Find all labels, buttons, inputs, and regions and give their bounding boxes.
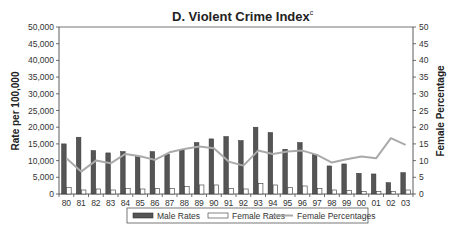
x-axis-ticks: 8081828384858687888990919293949596979899… <box>59 194 413 208</box>
x-tick-label: 96 <box>298 198 308 208</box>
x-tick-label: 95 <box>283 198 293 208</box>
male-rate-bar <box>106 153 111 194</box>
x-tick-label: 86 <box>150 198 160 208</box>
male-rate-bar <box>121 152 126 194</box>
y2-tick-label: 20 <box>419 122 429 132</box>
legend: Male Rates Female Rates Female Percentag… <box>127 208 375 223</box>
legend-swatch-male <box>133 213 153 218</box>
x-tick-label: 84 <box>121 198 131 208</box>
x-tick-label: 90 <box>209 198 219 208</box>
y2-axis-label: Female Percentage <box>435 65 446 157</box>
female-rate-bar <box>199 185 204 194</box>
x-tick-label: 97 <box>312 198 322 208</box>
x-tick-label: 00 <box>357 198 367 208</box>
female-rate-bar <box>362 191 367 194</box>
x-tick-label: 89 <box>194 198 204 208</box>
male-rate-bar <box>239 141 244 194</box>
female-rate-bar <box>273 185 278 194</box>
legend-label-percentage: Female Percentages <box>297 211 375 221</box>
male-rate-bar <box>357 173 362 194</box>
male-rate-bar <box>224 137 229 194</box>
female-rate-bar <box>303 186 308 194</box>
y-tick-label: 45,000 <box>28 39 54 49</box>
x-tick-label: 80 <box>62 198 72 208</box>
male-rate-bar <box>91 151 96 194</box>
x-tick-label: 98 <box>327 198 337 208</box>
x-tick-label: 92 <box>239 198 249 208</box>
female-rate-bar <box>258 183 263 194</box>
x-tick-label: 91 <box>224 198 234 208</box>
female-rate-bar <box>140 189 145 194</box>
female-rate-bar <box>185 187 190 194</box>
female-rate-bar <box>155 189 160 194</box>
male-rate-bar <box>283 149 288 194</box>
male-rate-bar <box>401 173 406 194</box>
y2-tick-label: 30 <box>419 89 429 99</box>
x-tick-label: 83 <box>106 198 116 208</box>
male-rate-bar <box>135 157 140 194</box>
female-rate-bar <box>347 191 352 194</box>
legend-label-male: Male Rates <box>157 211 200 221</box>
x-tick-label: 02 <box>386 198 396 208</box>
y-tick-label: 10,000 <box>28 156 54 166</box>
male-rate-bar <box>76 137 81 194</box>
female-rate-bar <box>391 191 396 194</box>
x-tick-label: 82 <box>91 198 101 208</box>
female-rate-bar <box>96 189 101 194</box>
chart-title: D. Violent Crime Indexc <box>172 9 314 24</box>
y-tick-label: 25,000 <box>28 106 54 116</box>
x-tick-label: 93 <box>253 198 263 208</box>
title-superscript: c <box>310 9 314 16</box>
male-rate-bar <box>165 154 170 194</box>
x-tick-label: 94 <box>268 198 278 208</box>
y2-tick-label: 25 <box>419 106 429 116</box>
female-rate-bar <box>317 188 322 194</box>
x-tick-label: 01 <box>371 198 381 208</box>
male-rate-bar <box>62 144 67 194</box>
female-rate-bar <box>67 187 72 194</box>
x-tick-label: 88 <box>180 198 190 208</box>
y2-axis-ticks: 05101520253035404550 <box>413 22 429 199</box>
female-rate-bar <box>81 190 86 194</box>
female-rate-bar <box>406 190 411 194</box>
legend-swatch-female <box>208 213 228 218</box>
male-rate-bar <box>371 174 376 194</box>
y2-tick-label: 5 <box>419 172 424 182</box>
x-tick-label: 81 <box>76 198 86 208</box>
y-tick-label: 50,000 <box>28 22 54 32</box>
y-axis-ticks: 05,00010,00015,00020,00025,00030,00035,0… <box>28 22 59 199</box>
female-rate-bar <box>214 185 219 194</box>
x-tick-label: 03 <box>401 198 411 208</box>
male-rate-bar <box>342 164 347 194</box>
y-tick-label: 5,000 <box>33 172 55 182</box>
y-tick-label: 0 <box>49 189 54 199</box>
y2-tick-label: 0 <box>419 189 424 199</box>
male-rate-bar <box>194 143 199 194</box>
x-tick-label: 99 <box>342 198 352 208</box>
y-tick-label: 20,000 <box>28 122 54 132</box>
y2-tick-label: 40 <box>419 55 429 65</box>
male-rate-bar <box>327 166 332 194</box>
y2-tick-label: 50 <box>419 22 429 32</box>
male-rate-bar <box>180 150 185 194</box>
y2-tick-label: 10 <box>419 156 429 166</box>
male-rate-bar <box>253 127 258 194</box>
male-rate-bar <box>268 133 273 194</box>
female-rate-bar <box>170 188 175 194</box>
y2-tick-label: 35 <box>419 72 429 82</box>
y2-tick-label: 45 <box>419 39 429 49</box>
female-rate-bar <box>332 190 337 194</box>
y2-tick-label: 15 <box>419 139 429 149</box>
female-rate-bar <box>126 188 131 194</box>
plot-area <box>59 27 413 194</box>
y-tick-label: 30,000 <box>28 89 54 99</box>
female-percentage-line <box>66 138 405 171</box>
female-rate-bar <box>288 187 293 194</box>
female-rate-bar <box>376 191 381 194</box>
y-tick-label: 15,000 <box>28 139 54 149</box>
female-rate-bar <box>111 190 116 194</box>
y-axis-label: Rate per 100,000 <box>10 71 21 150</box>
y-tick-label: 40,000 <box>28 55 54 65</box>
y-tick-label: 35,000 <box>28 72 54 82</box>
female-rate-bar <box>229 188 234 194</box>
